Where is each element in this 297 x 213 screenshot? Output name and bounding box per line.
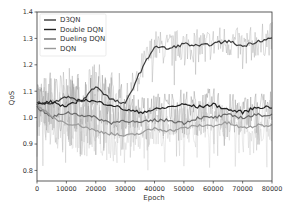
x-tick-label: 40000 <box>144 185 165 193</box>
y-tick-label: 1.0 <box>23 114 33 122</box>
y-tick-label: 1.3 <box>23 35 33 43</box>
line-chart: 0.80.91.01.11.21.31.4 010000200003000040… <box>0 0 297 213</box>
x-tick-label: 20000 <box>85 185 106 193</box>
x-tick-label: 50000 <box>174 185 195 193</box>
x-tick-label: 30000 <box>115 185 136 193</box>
y-axis: 0.80.91.01.11.21.31.4 <box>23 8 37 174</box>
y-tick-label: 0.9 <box>23 140 33 148</box>
y-tick-label: 1.4 <box>23 8 33 16</box>
x-tick-label: 10000 <box>56 185 77 193</box>
y-axis-label: QoS <box>8 90 16 105</box>
y-tick-label: 0.8 <box>23 167 33 175</box>
x-axis: 0100002000030000400005000060000700008000… <box>35 181 282 193</box>
x-tick-label: 80000 <box>262 185 283 193</box>
y-tick-label: 1.2 <box>23 61 33 69</box>
legend-label: DQN <box>60 45 76 53</box>
legend: D3QNDouble DQNDueling DQNDQN <box>40 14 106 56</box>
legend-label: Double DQN <box>60 26 103 34</box>
x-tick-label: 0 <box>35 185 39 193</box>
x-tick-label: 60000 <box>203 185 224 193</box>
legend-label: Dueling DQN <box>60 35 105 43</box>
legend-label: D3QN <box>60 16 81 24</box>
x-tick-label: 70000 <box>232 185 253 193</box>
x-axis-label: Epoch <box>143 194 164 202</box>
y-tick-label: 1.1 <box>23 88 33 96</box>
